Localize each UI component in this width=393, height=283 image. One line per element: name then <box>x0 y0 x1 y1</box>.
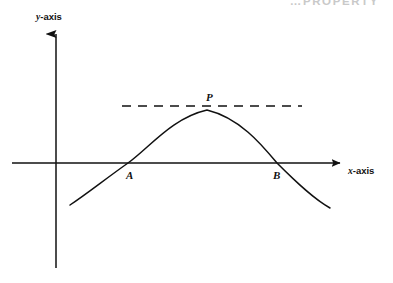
x-axis-label: x-axis <box>348 165 374 176</box>
coordinate-plane-figure <box>0 0 393 283</box>
point-label-b: B <box>273 169 280 181</box>
curve-path <box>70 110 330 208</box>
figure-screenshot: …PROPERTY y-axis x-axis A B P <box>0 0 393 283</box>
y-axis-label: y-axis <box>36 11 62 22</box>
point-label-a: A <box>126 169 133 181</box>
point-label-p: P <box>206 91 213 103</box>
